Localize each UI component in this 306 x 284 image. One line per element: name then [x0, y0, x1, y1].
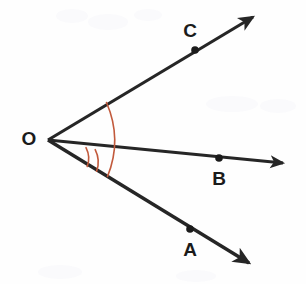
angle-diagram-figure: O C B A	[0, 0, 306, 284]
angle-arc-coa	[107, 103, 115, 177]
rays-group	[48, 17, 283, 263]
ghost-smudge-top-mid	[88, 14, 128, 30]
point-b-dot	[215, 154, 223, 162]
point-c-dot	[191, 46, 199, 54]
vertex-label-o: O	[22, 128, 37, 149]
ghost-smudge-top-right	[134, 9, 162, 21]
scan-artifacts	[38, 9, 296, 282]
point-label-b: B	[212, 168, 226, 189]
point-label-a: A	[183, 239, 197, 260]
point-label-c: C	[183, 20, 197, 41]
ghost-smudge-bottom-left	[38, 265, 82, 279]
ghost-smudge-top-left	[56, 9, 88, 23]
points-group	[186, 46, 223, 233]
ray-oc	[48, 17, 253, 140]
ghost-smudge-bottom-right	[176, 270, 216, 282]
ghost-smudge-right-upper	[206, 96, 258, 112]
ray-ob	[48, 140, 283, 163]
point-a-dot	[186, 225, 194, 233]
ghost-smudge-right-edge	[260, 99, 296, 113]
angle-diagram-canvas: O C B A	[0, 0, 306, 284]
